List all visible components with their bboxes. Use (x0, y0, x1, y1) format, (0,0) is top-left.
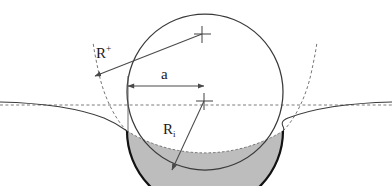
label-radius-indent-subscript: i (173, 129, 176, 139)
label-radius-indent-base: R (163, 121, 173, 137)
indentation-lens-area (127, 131, 283, 186)
indentation-geometry-figure: R+ a Ri (0, 0, 392, 186)
label-contact-radius: a (161, 67, 168, 82)
crosshair-lower-center (196, 93, 213, 110)
label-radius-indent: Ri (163, 122, 176, 137)
crosshair-upper-center (194, 26, 211, 43)
label-radius-plus: R+ (96, 46, 111, 61)
deformed-surface-curve-right (282, 102, 392, 131)
figure-canvas (0, 0, 392, 186)
label-radius-plus-superscript: + (106, 44, 111, 54)
deformed-surface-curve-left (0, 102, 127, 131)
label-radius-plus-base: R (96, 45, 106, 61)
